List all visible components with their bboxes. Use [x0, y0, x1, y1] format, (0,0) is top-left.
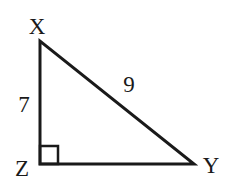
side-label-xy: 9 — [123, 72, 135, 97]
triangle-canvas: X Z Y 7 9 — [0, 0, 229, 187]
triangle-xyz — [40, 41, 194, 164]
triangle-diagram: X Z Y 7 9 — [0, 0, 229, 187]
vertex-label-y: Y — [203, 153, 220, 178]
right-angle-marker — [40, 146, 58, 164]
vertex-label-z: Z — [15, 156, 29, 181]
vertex-label-x: X — [29, 14, 46, 39]
side-label-xz: 7 — [18, 92, 30, 117]
